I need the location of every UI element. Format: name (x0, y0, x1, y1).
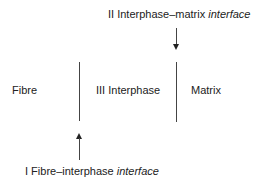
label-fibre-interphase-italic: interface (117, 165, 159, 177)
label-interphase-matrix-text: II Interphase–matrix (108, 8, 208, 20)
label-interphase-matrix-italic: interface (208, 8, 250, 20)
label-fibre-interphase-text: I Fibre–interphase (25, 165, 117, 177)
label-interphase-matrix-interface: II Interphase–matrix interface (108, 8, 250, 20)
region-interphase: III Interphase (96, 84, 160, 96)
region-matrix: Matrix (191, 84, 221, 96)
fibre-interphase-boundary-line (79, 62, 80, 121)
interphase-matrix-boundary-line (176, 62, 177, 122)
region-fibre: Fibre (12, 84, 37, 96)
label-fibre-interphase-interface: I Fibre–interphase interface (25, 165, 159, 177)
